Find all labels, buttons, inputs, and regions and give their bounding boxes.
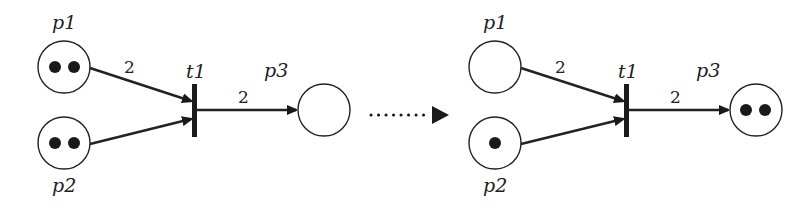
arc-weight: 2 [670,87,681,107]
token [49,137,61,149]
place-label-p3: p3 [696,59,720,81]
firing-arrow [371,106,449,124]
token [489,137,501,149]
place-p3 [298,84,350,136]
transition-label-t1: t1 [186,60,206,82]
arc-weight: 2 [124,57,135,77]
net-before: p1 p2 2 t1 2 p3 [38,11,350,196]
arc-weight: 2 [555,57,566,77]
arc-p2-t1 [90,119,191,144]
petri-net-diagram: p1 p2 2 t1 2 p3 p1 p2 2 t1 2 [0,0,811,211]
place-label-p3: p3 [264,59,288,81]
place-label-p2: p2 [52,174,76,196]
place-label-p1: p1 [483,11,507,33]
place-p3 [730,84,782,136]
token [68,61,80,73]
arc-p1-t1 [521,68,623,101]
arc-weight: 2 [238,87,249,107]
place-p1 [469,41,521,93]
token [49,61,61,73]
token [68,137,80,149]
transition-t1 [624,84,629,137]
token [740,104,752,116]
transition-t1 [192,84,197,137]
place-label-p1: p1 [52,11,76,33]
place-p1 [38,41,90,93]
place-p2 [38,117,90,169]
arc-p1-t1 [90,68,191,101]
place-label-p2: p2 [483,174,507,196]
net-after: p1 p2 2 t1 2 p3 [469,11,782,196]
arc-p2-t1 [521,119,623,144]
transition-label-t1: t1 [618,60,638,82]
token [759,104,771,116]
